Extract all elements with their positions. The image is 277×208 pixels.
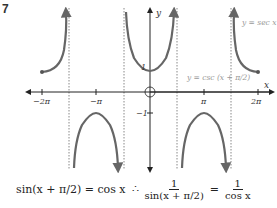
fraction-denominator: sin(x + π/2) xyxy=(145,190,204,201)
fraction-sec: 1 cos x xyxy=(225,178,251,201)
tick-label-one: 1 xyxy=(141,63,146,72)
tick-label-negpi: −π xyxy=(90,97,103,106)
identity-equation: sin(x + π/2) = cos x ∴ 1 sin(x + π/2) = … xyxy=(16,178,251,201)
tick-label-neg2pi: −2π xyxy=(33,97,51,106)
therefore-symbol: ∴ xyxy=(132,183,139,196)
fraction-numerator: 1 xyxy=(233,178,243,190)
equation-left: sin(x + π/2) = cos x xyxy=(16,183,126,196)
sec-curve-label: y = sec x xyxy=(241,18,277,27)
equals-sign: = xyxy=(210,183,219,196)
fraction-denominator: cos x xyxy=(225,190,251,201)
branch-left-up xyxy=(42,12,66,72)
branch-right-down xyxy=(182,113,226,168)
fraction-csc: 1 sin(x + π/2) xyxy=(145,178,204,201)
csc-curve-label: y = csc (x + π/2) xyxy=(186,73,250,82)
tick-label-neg-one: −1 xyxy=(136,109,148,118)
sec-csc-graph: y x −2π −π π 2π 1 −1 y = sec x y = csc (… xyxy=(0,0,277,175)
tick-label-2pi: 2π xyxy=(250,97,262,106)
branch-left-down xyxy=(74,113,118,168)
y-axis-label: y xyxy=(155,8,162,18)
fraction-numerator: 1 xyxy=(169,178,179,190)
tick-label-pi: π xyxy=(200,97,207,106)
x-axis-label: x xyxy=(264,80,269,90)
